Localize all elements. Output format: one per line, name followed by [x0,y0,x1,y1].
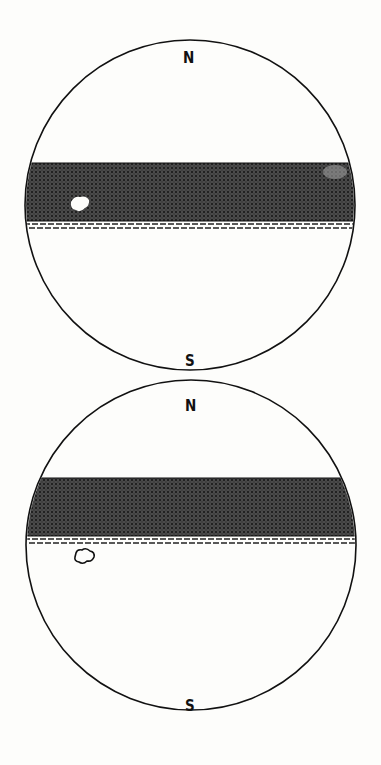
panel-bottom: N S [0,380,381,715]
north-label: N [185,397,196,415]
panel-top: N S [0,40,381,370]
outer-circle [26,380,356,710]
north-label: N [183,49,194,67]
dashed-rule [0,539,381,543]
outlined-spot [75,549,94,564]
diagram-figure: N S N S [0,0,381,765]
south-label: S [185,697,195,715]
south-label: S [185,352,195,370]
shaded-band [0,478,381,536]
dashed-rule [0,224,381,228]
